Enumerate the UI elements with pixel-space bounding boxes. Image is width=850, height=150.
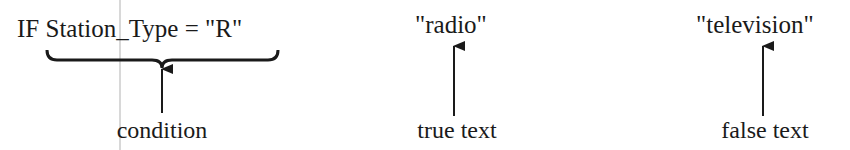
condition-label: condition [117, 118, 208, 142]
curly-brace-icon [47, 50, 278, 68]
false-text-label: false text [721, 118, 808, 142]
true-text-label: true text [417, 118, 496, 142]
